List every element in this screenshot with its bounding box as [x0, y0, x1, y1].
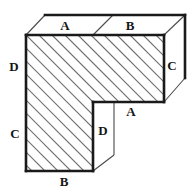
label-b-bottom: B [60, 175, 69, 188]
label-c-right: C [167, 59, 176, 72]
top-face [26, 15, 185, 35]
label-c-left: C [10, 127, 19, 140]
label-b-top: B [126, 19, 135, 32]
label-d-inner: D [98, 124, 107, 137]
figure-canvas: A B C D A D C B [0, 0, 194, 195]
label-d-left: D [9, 60, 18, 73]
solid-figure-svg [0, 0, 194, 195]
label-a-top: A [60, 19, 69, 32]
label-a-inner: A [126, 105, 135, 118]
